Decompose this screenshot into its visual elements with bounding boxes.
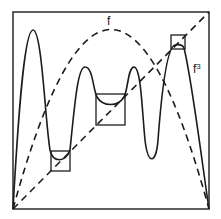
label-f: f — [107, 15, 110, 27]
label-f3: f3 — [193, 63, 201, 75]
identity-diagonal — [13, 12, 209, 209]
curve-f3 — [13, 30, 209, 209]
curve-f — [13, 30, 209, 210]
label-f3-exponent: 3 — [196, 62, 200, 71]
iteration-diagram — [0, 0, 221, 219]
